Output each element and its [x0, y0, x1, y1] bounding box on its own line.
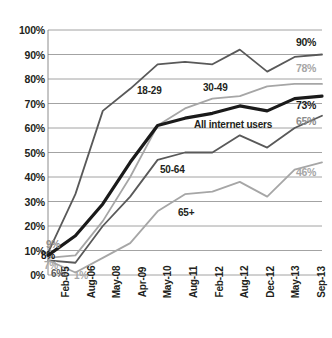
endpoint-label-30-49: 78% — [296, 62, 316, 74]
xtick-aug-06: Aug-06 — [80, 282, 92, 334]
ytick-label: 30% — [3, 197, 45, 207]
xtick-apr-09: Apr-09 — [131, 282, 143, 334]
series-label-18-29: 18-29 — [137, 85, 162, 96]
xtick-dec-12: Dec-12 — [259, 282, 271, 334]
xtick-feb-12: Feb-12 — [208, 282, 220, 334]
xtick-aug-11: Aug-11 — [182, 282, 194, 334]
endpoint-label-18-29: 90% — [296, 36, 316, 48]
xtick-label: Sep-13 — [316, 266, 327, 298]
ytick-80: 80% — [0, 74, 45, 84]
endpoint-label-65plus: 46% — [296, 166, 316, 178]
ytick-0: 0% — [0, 270, 45, 280]
xtick-label: Apr-09 — [137, 267, 148, 297]
ytick-label: 20% — [3, 221, 45, 231]
xtick-label: May-08 — [111, 266, 122, 299]
endpoint-label-all-internet-users: 73% — [296, 99, 316, 111]
startpoint-label-50-64: 6% — [51, 268, 65, 279]
ytick-20: 20% — [0, 221, 45, 231]
ytick-label: 100% — [3, 25, 45, 35]
xtick-feb-05: Feb-05 — [54, 282, 66, 334]
series-line-30-49 — [48, 84, 322, 258]
xtick-label: Aug-11 — [188, 266, 199, 298]
ytick-label: 10% — [3, 246, 45, 256]
series-line-all-internet-users — [48, 96, 322, 255]
ytick-30: 30% — [0, 197, 45, 207]
endpoint-label-50-64: 65% — [296, 115, 316, 127]
xtick-aug-12: Aug-12 — [233, 282, 245, 334]
ytick-label: 70% — [3, 99, 45, 109]
ytick-label: 90% — [3, 50, 45, 60]
xtick-label: May-10 — [162, 266, 173, 299]
xtick-label: Aug-12 — [239, 266, 250, 299]
ytick-50: 50% — [0, 148, 45, 158]
series-label-all-internet-users: All internet users — [194, 119, 272, 130]
series-lines-group — [48, 50, 322, 273]
line-chart-internet-adoption-by-age: 100% 90% 80% 70% 60% 50% 40% 30% 20% 10%… — [0, 0, 332, 338]
ytick-label: 0% — [3, 270, 45, 280]
xtick-label: May-13 — [290, 266, 301, 299]
series-line-50-64 — [48, 116, 322, 263]
xtick-sep-13: Sep-13 — [310, 282, 322, 334]
series-label-50-64: 50-64 — [160, 164, 185, 175]
series-line-18-29 — [48, 50, 322, 253]
ytick-10: 10% — [0, 246, 45, 256]
series-label-65plus: 65+ — [178, 207, 194, 218]
startpoint-label-65plus: 1% — [74, 270, 88, 281]
startpoint-label-18-29: 9% — [46, 239, 60, 250]
ytick-40: 40% — [0, 172, 45, 182]
ytick-60: 60% — [0, 123, 45, 133]
series-label-30-49: 30-49 — [203, 82, 228, 93]
xtick-may-10: May-10 — [156, 282, 168, 334]
ytick-label: 50% — [3, 148, 45, 158]
xtick-label: Dec-12 — [265, 266, 276, 298]
xtick-label: Feb-12 — [214, 266, 225, 297]
xtick-may-08: May-08 — [105, 282, 117, 334]
ytick-label: 40% — [3, 172, 45, 182]
ytick-label: 80% — [3, 74, 45, 84]
ytick-100: 100% — [0, 25, 45, 35]
xtick-may-13: May-13 — [284, 282, 296, 334]
ytick-label: 60% — [3, 123, 45, 133]
ytick-70: 70% — [0, 99, 45, 109]
ytick-90: 90% — [0, 50, 45, 60]
